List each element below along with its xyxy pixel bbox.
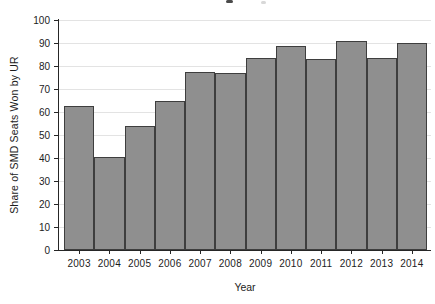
- bar: [155, 101, 185, 251]
- bar: [367, 58, 397, 250]
- y-tick-label: 80: [20, 61, 50, 72]
- x-axis-tick: [321, 250, 322, 254]
- x-axis-title: Year: [215, 281, 275, 293]
- bar: [185, 72, 215, 250]
- x-axis-tick: [170, 250, 171, 254]
- y-axis-tick: [54, 20, 59, 21]
- y-tick-label: 20: [20, 199, 50, 210]
- y-axis-tick: [54, 204, 59, 205]
- bar: [246, 58, 276, 250]
- x-axis-tick: [109, 250, 110, 254]
- x-axis-tick: [382, 250, 383, 254]
- y-tick-label: 100: [20, 15, 50, 26]
- bar: [276, 46, 306, 250]
- y-axis-tick: [54, 135, 59, 136]
- bar: [306, 59, 336, 250]
- y-tick-label: 70: [20, 84, 50, 95]
- y-tick-label: 50: [20, 130, 50, 141]
- x-tick-label: 2014: [392, 258, 432, 269]
- x-axis-tick: [200, 250, 201, 254]
- y-axis-tick: [54, 158, 59, 159]
- plot-area: [59, 20, 431, 250]
- bar: [336, 41, 366, 250]
- y-axis-tick: [54, 250, 59, 251]
- x-axis-tick: [79, 250, 80, 254]
- bar: [125, 126, 155, 250]
- bar: [64, 106, 94, 250]
- bar: [94, 157, 124, 250]
- y-tick-label: 40: [20, 153, 50, 164]
- y-axis-tick: [54, 43, 59, 44]
- y-tick-label: 60: [20, 107, 50, 118]
- bar: [215, 73, 245, 250]
- y-axis-tick: [54, 112, 59, 113]
- cropped-title-fragment-2: [261, 1, 266, 4]
- x-axis-tick: [140, 250, 141, 254]
- x-axis-tick: [230, 250, 231, 254]
- x-axis-line: [58, 250, 431, 251]
- gridline: [59, 20, 431, 21]
- gridline: [59, 43, 431, 44]
- y-axis-tick: [54, 66, 59, 67]
- y-tick-label: 0: [20, 245, 50, 256]
- bar: [397, 43, 427, 250]
- y-axis-title: Share of SMD Seats Won by UR: [8, 56, 20, 214]
- y-axis-tick: [54, 89, 59, 90]
- y-tick-label: 10: [20, 222, 50, 233]
- cropped-title-fragment: [226, 0, 233, 3]
- bar-chart-figure: Share of SMD Seats Won by UR 01020304050…: [0, 0, 435, 304]
- x-axis-tick: [261, 250, 262, 254]
- x-axis-tick: [412, 250, 413, 254]
- x-axis-tick: [291, 250, 292, 254]
- x-axis-tick: [351, 250, 352, 254]
- y-tick-label: 90: [20, 38, 50, 49]
- y-axis-tick: [54, 227, 59, 228]
- y-tick-label: 30: [20, 176, 50, 187]
- y-axis-tick: [54, 181, 59, 182]
